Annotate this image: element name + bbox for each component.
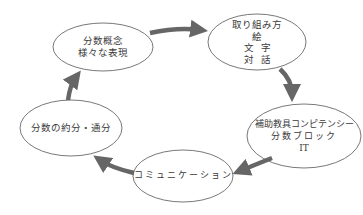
node-concept-line-1: 分数概念 xyxy=(78,35,128,47)
node-approach-line-1: 取り組み方 xyxy=(232,19,282,31)
node-communication-line-1: コミュニケーション xyxy=(134,169,233,181)
node-aids-line-1: 補助教具コンピテンシー xyxy=(255,118,354,130)
node-aids-line-2: 分数ブロック xyxy=(255,130,354,142)
cycle-diagram: 分数概念 様々な表現 取り組み方 絵 文字 対話 補助教具コンピテンシー 分数ブ… xyxy=(0,0,363,215)
node-reduction: 分数の約分・通分 xyxy=(31,122,111,134)
node-approach-line-2: 絵 xyxy=(232,31,282,43)
node-approach-line-3: 文字 xyxy=(239,42,282,54)
arrow-communication-to-reduction xyxy=(100,160,134,173)
arrow-concept-to-approach xyxy=(150,29,200,33)
node-concept: 分数概念 様々な表現 xyxy=(78,35,128,59)
node-approach-line-4: 対話 xyxy=(239,54,282,66)
node-reduction-line-1: 分数の約分・通分 xyxy=(31,122,111,134)
node-aids-line-3: IT xyxy=(255,142,354,154)
diagram-graphics xyxy=(0,0,363,215)
node-concept-line-2: 様々な表現 xyxy=(78,47,128,59)
node-communication: コミュニケーション xyxy=(134,169,233,181)
arrow-aids-to-communication xyxy=(240,158,272,171)
node-aids: 補助教具コンピテンシー 分数ブロック IT xyxy=(255,118,354,154)
arrow-approach-to-aids xyxy=(280,69,292,94)
arrow-reduction-to-concept xyxy=(68,77,76,100)
node-approach: 取り組み方 絵 文字 対話 xyxy=(232,19,282,65)
